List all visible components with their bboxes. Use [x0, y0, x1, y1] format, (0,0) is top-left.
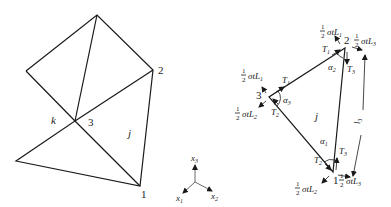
element-k-label: k [51, 114, 57, 126]
load-l2-arrow-node1 [322, 176, 329, 183]
load-label-l3-node1: 1 2 σtL3 [339, 172, 361, 189]
svg-text:1: 1 [321, 23, 325, 31]
x2-axis-label: x2 [210, 191, 218, 202]
svg-text:2: 2 [296, 189, 300, 197]
tension-t2-node3-label: T2 [271, 107, 279, 118]
angle-alpha-2-label: α2 [328, 62, 336, 73]
svg-text:1: 1 [340, 172, 344, 180]
svg-text:1: 1 [242, 67, 246, 75]
element-node-1-label: 1 [333, 174, 339, 186]
tension-t1-node3-label: T1 [282, 75, 290, 86]
svg-text:σtL3: σtL3 [346, 176, 361, 187]
tension-t3-node2-label: T3 [347, 64, 355, 75]
t3-arrow-node1 [336, 158, 337, 170]
length-dim-arrow-up [363, 55, 365, 110]
load-label-l1-node3: 1 2 σtL1 [241, 67, 263, 84]
angle-arc-1 [324, 159, 335, 162]
svg-text:σtL1: σtL1 [327, 27, 342, 38]
mesh-edge [75, 15, 97, 121]
svg-text:1: 1 [296, 180, 300, 188]
x1-axis-label: x1 [175, 193, 183, 204]
x1-axis-arrow [183, 182, 195, 193]
svg-text:2: 2 [242, 76, 246, 84]
element-node-3-label: 3 [256, 89, 262, 101]
svg-text:σtL3: σtL3 [361, 36, 376, 47]
svg-text:2: 2 [340, 181, 344, 189]
load-label-l2-node1: 1 2 σtL2 [295, 180, 317, 197]
svg-text:σtL2: σtL2 [242, 109, 257, 120]
load-l1-arrow-node3 [262, 87, 266, 93]
finite-element-mesh [16, 15, 153, 186]
svg-text:2: 2 [355, 41, 359, 49]
svg-text:1: 1 [355, 32, 359, 40]
length-dim-arrow-down [353, 135, 361, 176]
mesh-node-2-label: 2 [158, 64, 164, 76]
svg-text:σtL1: σtL1 [248, 71, 263, 82]
t1-arrow-node3 [276, 87, 284, 92]
mesh-node-3-label: 3 [88, 116, 94, 128]
load-label-l3-node2: 1 2 σtL3 [354, 32, 376, 49]
tension-t2-node1-label: T2 [314, 155, 322, 166]
stress-element-diagram: 2 3 1 k j x3 x2 x1 2 3 1 j [0, 0, 391, 207]
length-l3-label: l3 [352, 118, 363, 124]
load-label-l2-node3: 1 2 σtL2 [235, 105, 257, 122]
tension-t1-node2-label: T1 [322, 44, 330, 55]
element-j-label: j [126, 127, 131, 139]
t2-arrow-node1 [325, 164, 331, 170]
mesh-outline [16, 15, 153, 186]
svg-text:1: 1 [236, 105, 240, 113]
svg-text:σtL2: σtL2 [302, 184, 317, 195]
svg-text:2: 2 [236, 114, 240, 122]
angle-alpha-3-label: α3 [283, 95, 291, 106]
load-l2-arrow-node3 [259, 101, 266, 107]
element-j-label-right: j [313, 110, 318, 122]
x2-axis-arrow [195, 182, 212, 191]
mesh-node-1-label: 1 [141, 188, 147, 200]
x3-axis-label: x3 [190, 153, 198, 164]
angle-alpha-1-label: α1 [320, 136, 328, 147]
element-node-2-label: 2 [344, 34, 350, 46]
coordinate-axes [183, 165, 212, 193]
svg-text:2: 2 [321, 32, 325, 40]
load-label-l1-node2: 1 2 σtL1 [320, 23, 342, 40]
mesh-edge [75, 70, 153, 121]
angle-arc-2 [337, 53, 343, 58]
tension-t3-node1-label: T3 [339, 146, 347, 157]
